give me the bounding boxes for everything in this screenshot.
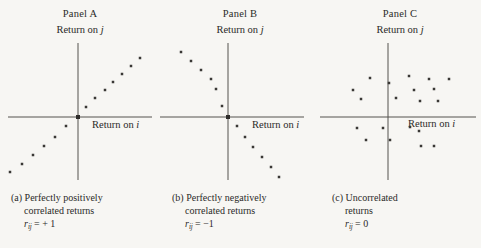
panel-c-axes — [320, 43, 476, 180]
scatter-point — [130, 65, 133, 68]
panel-a-formula-subscript: ij — [28, 223, 32, 231]
scatter-point — [448, 78, 451, 81]
panel-a-caption-line-2: correlated returns — [11, 205, 103, 218]
scatter-point — [356, 127, 359, 130]
panel-c-caption: (c) Uncorrelated returns rij = 0 — [332, 192, 398, 234]
scatter-point — [419, 100, 422, 103]
panel-c-caption-line-2: returns — [332, 205, 398, 218]
scatter-point — [221, 105, 224, 108]
scatter-point — [190, 60, 193, 63]
scatter-point — [9, 171, 12, 174]
scatter-point — [210, 78, 213, 81]
panel-b-formula: rij = −1 — [172, 217, 266, 234]
scatter-point — [200, 69, 203, 72]
scatter-point — [365, 139, 368, 142]
scatter-point — [252, 146, 255, 149]
panel-a: Panel A Return on j Return on i (a) Perf… — [0, 0, 160, 248]
panel-c-formula: rij = 0 — [332, 217, 398, 234]
correlation-scatter-figure: Panel A Return on j Return on i (a) Perf… — [0, 0, 481, 248]
scatter-point — [244, 136, 247, 139]
panel-a-formula: rij = + 1 — [11, 217, 103, 234]
scatter-point — [236, 125, 239, 128]
scatter-point — [433, 145, 436, 148]
scatter-point — [43, 145, 46, 148]
scatter-point — [112, 81, 115, 84]
panel-b-caption-marker: (b) — [172, 192, 184, 203]
panel-a-caption-text-1: Perfectly positively — [25, 192, 103, 203]
scatter-point — [433, 88, 436, 91]
panel-c-data-points — [352, 75, 451, 148]
scatter-point — [270, 166, 273, 169]
scatter-point — [54, 136, 57, 139]
scatter-point — [32, 154, 35, 157]
scatter-point — [121, 73, 124, 76]
scatter-point — [65, 125, 68, 128]
panel-c-caption-text-1: Uncorrelated — [346, 192, 398, 203]
panel-c: Panel C Return on j Return on i (c) Unco… — [320, 0, 480, 248]
scatter-point — [139, 57, 142, 60]
panel-a-data-points — [9, 57, 142, 174]
panel-c-formula-value: = 0 — [355, 218, 368, 229]
scatter-point — [388, 82, 391, 85]
panel-b-caption: (b) Perfectly negatively correlated retu… — [172, 192, 266, 234]
panel-c-caption-line-1: (c) Uncorrelated — [332, 192, 398, 205]
scatter-point — [408, 75, 411, 78]
scatter-point — [413, 89, 416, 92]
panel-a-caption-line-1: (a) Perfectly positively — [11, 192, 103, 205]
scatter-point — [389, 139, 392, 142]
panel-b-caption-line-1: (b) Perfectly negatively — [172, 192, 266, 205]
scatter-point — [278, 176, 281, 179]
panel-b-caption-text-1: Perfectly negatively — [186, 192, 266, 203]
panel-b-formula-subscript: ij — [189, 223, 193, 231]
scatter-point — [437, 100, 440, 103]
scatter-point — [94, 97, 97, 100]
scatter-point — [352, 89, 355, 92]
scatter-point — [369, 77, 372, 80]
panel-a-formula-value: = + 1 — [34, 218, 55, 229]
panel-b-caption-line-2: correlated returns — [172, 205, 266, 218]
panel-a-caption: (a) Perfectly positively correlated retu… — [11, 192, 103, 234]
scatter-point — [85, 106, 88, 109]
scatter-point — [382, 127, 385, 130]
panel-b: Panel B Return on j Return on i (b) Perf… — [160, 0, 320, 248]
panel-a-caption-marker: (a) — [11, 192, 22, 203]
scatter-point — [21, 163, 24, 166]
panel-c-caption-marker: (c) — [332, 192, 343, 203]
scatter-point — [104, 89, 107, 92]
panel-c-formula-subscript: ij — [349, 223, 353, 231]
panel-b-axes — [160, 43, 304, 180]
panel-b-formula-value: = −1 — [195, 218, 214, 229]
panel-b-data-points — [180, 51, 281, 179]
panel-a-axes — [8, 43, 152, 180]
scatter-point — [180, 51, 183, 54]
scatter-point — [360, 98, 363, 101]
scatter-point — [261, 156, 264, 159]
scatter-point — [428, 78, 431, 81]
scatter-point — [215, 88, 218, 91]
scatter-point — [409, 126, 412, 129]
scatter-point — [395, 97, 398, 100]
scatter-point — [418, 130, 421, 133]
scatter-point — [420, 145, 423, 148]
